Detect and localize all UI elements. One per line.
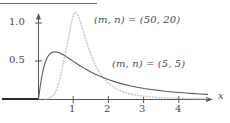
figure-panel: 1.0 0.5 1 2 3 4 x (m, n) = (50, 20) (m, … — [0, 0, 230, 123]
curve-series-50-20 — [46, 12, 208, 99]
y-axis-arrow — [36, 13, 41, 20]
plot-canvas — [0, 0, 230, 123]
